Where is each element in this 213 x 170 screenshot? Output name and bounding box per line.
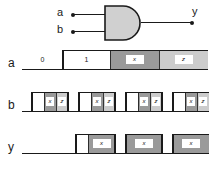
waveform-value-chip: x — [93, 97, 101, 106]
waveform-value-chip: x — [93, 139, 111, 148]
waveform-transition-edge — [75, 134, 77, 154]
waveform-trace-b: xzxzxzxz — [0, 88, 213, 118]
waveform-segment-divider — [150, 92, 151, 112]
gate-input-a-wire — [74, 14, 106, 15]
waveform-transition-edge — [67, 92, 69, 112]
waveform-transition-edge — [125, 92, 127, 112]
gate-input-b-wire — [74, 31, 106, 32]
waveform-segment-divider — [110, 50, 111, 70]
and-gate-body — [104, 5, 146, 41]
waveform-value-chip: x — [126, 55, 144, 64]
waveform-segment-0 — [22, 69, 63, 71]
waveform-row-a: a 01xz — [0, 46, 213, 76]
waveform-transition-edge — [114, 134, 116, 154]
gate-output-y-label: y — [192, 6, 198, 17]
waveform-segment-1 — [173, 92, 185, 112]
and-gate-schematic: a b y — [0, 0, 213, 44]
timing-diagram-figure: a b y a 01xz b xzxzxzxz y xxx — [0, 0, 213, 170]
waveform-segment-divider — [103, 92, 104, 112]
gate-output-y-terminal — [190, 21, 194, 25]
waveform-value-chip: z — [199, 97, 207, 106]
waveform-value-chip: z — [105, 97, 113, 106]
waveform-value-chip: x — [187, 97, 195, 106]
gate-output-wire — [141, 22, 191, 23]
waveform-value-chip: x — [140, 97, 148, 106]
waveform-transition-edge — [31, 92, 33, 112]
waveform-transition-edge — [172, 134, 174, 154]
waveform-transition-edge — [172, 92, 174, 112]
waveform-transition-edge — [161, 92, 163, 112]
waveform-segment-0 — [22, 153, 76, 155]
waveform-segment-divider — [185, 92, 186, 112]
waveform-segment-divider — [91, 92, 92, 112]
waveform-segment-divider — [56, 92, 57, 112]
waveform-value-label: 1 — [63, 56, 110, 64]
waveform-value-chip: x — [135, 139, 153, 148]
waveform-segment-divider — [159, 50, 160, 70]
waveform-transition-edge — [125, 134, 127, 154]
waveform-value-chip: z — [175, 55, 193, 64]
waveform-value-chip: x — [46, 97, 54, 106]
gate-input-b-label: b — [57, 24, 63, 35]
waveform-segment-1 — [32, 92, 44, 112]
waveform-trace-y: xxx — [0, 130, 213, 160]
waveform-transition-edge — [161, 134, 163, 154]
waveform-segment-divider — [88, 134, 89, 154]
gate-input-a-label: a — [57, 7, 63, 18]
waveform-transition-edge — [78, 92, 80, 112]
waveform-segment-divider — [44, 92, 45, 112]
waveform-value-label: 0 — [22, 56, 63, 64]
waveform-segment-1 — [126, 92, 138, 112]
waveform-segment-divider — [197, 92, 198, 112]
waveform-value-chip: x — [182, 139, 200, 148]
waveform-segment-1 — [76, 134, 88, 154]
waveform-row-b: b xzxzxzxz — [0, 88, 213, 118]
waveform-row-y: y xxx — [0, 130, 213, 160]
waveform-segment-divider — [138, 92, 139, 112]
waveform-segment-1 — [79, 92, 91, 112]
waveform-value-chip: z — [58, 97, 66, 106]
waveform-trace-a: 01xz — [0, 46, 213, 76]
waveform-value-chip: z — [152, 97, 160, 106]
waveform-transition-edge — [114, 92, 116, 112]
